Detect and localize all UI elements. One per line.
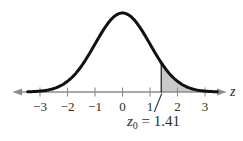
bell-curve [28, 13, 218, 92]
normal-curve-plot: −3−2−10123 z [0, 0, 243, 141]
tick-label: −3 [33, 99, 47, 114]
left-arrowhead-icon [13, 88, 23, 95]
tick-label: −1 [88, 99, 102, 114]
normal-distribution-figure: −3−2−10123 z z0 = 1.41 [0, 0, 243, 141]
z0-leader-stroke [154, 94, 162, 113]
z0-leader-line [154, 94, 162, 113]
tick-label: 0 [119, 99, 126, 114]
axis-label-z: z [229, 84, 236, 99]
bell-curve-path [28, 13, 218, 92]
tick-label: 3 [202, 99, 209, 114]
axis-tick-labels: −3−2−10123 [33, 99, 208, 114]
tick-label: −2 [61, 99, 75, 114]
z0-annotation-value: = 1.41 [138, 113, 180, 129]
z0-annotation: z0 = 1.41 [127, 112, 180, 130]
